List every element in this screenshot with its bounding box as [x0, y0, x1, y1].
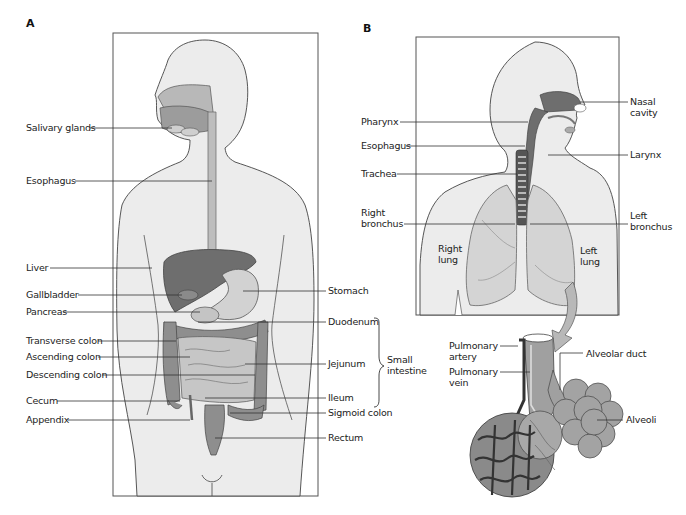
label-stomach: Stomach [328, 285, 369, 296]
label-jejunum: Jejunum [328, 358, 365, 369]
label-pulmonary-artery-line2: artery [449, 351, 498, 362]
label-alveolar-duct: Alveolar duct [586, 348, 646, 359]
label-left-bronchus: Left bronchus [630, 210, 672, 232]
label-left-bronchus-line2: bronchus [630, 221, 672, 232]
label-cecum: Cecum [26, 395, 58, 406]
panel-a-figure [50, 33, 384, 496]
label-alveoli: Alveoli [626, 414, 656, 425]
label-right-lung: Right lung [438, 243, 462, 265]
label-right-lung-line2: lung [438, 254, 462, 265]
label-appendix: Appendix [26, 414, 69, 425]
label-right-bronchus: Right bronchus [361, 207, 403, 229]
label-left-lung-line1: Left [580, 245, 600, 256]
label-larynx: Larynx [630, 149, 661, 160]
label-pulmonary-vein-line1: Pulmonary [449, 366, 498, 377]
label-right-bronchus-line2: bronchus [361, 218, 403, 229]
label-esophagus-b: Esophagus [361, 140, 411, 151]
label-trachea: Trachea [361, 168, 397, 179]
label-pulmonary-artery: Pulmonary artery [449, 340, 498, 362]
label-nasal-cavity-line2: cavity [630, 107, 657, 118]
label-salivary-glands: Salivary glands [26, 122, 96, 133]
label-gallbladder: Gallbladder [26, 289, 79, 300]
label-nasal-cavity: Nasal cavity [630, 96, 657, 118]
label-ileum: Ileum [328, 392, 354, 403]
label-pulmonary-vein-line2: vein [449, 377, 498, 388]
label-pharynx: Pharynx [361, 116, 398, 127]
label-rectum: Rectum [328, 432, 363, 443]
label-duodenum: Duodenum [328, 316, 379, 327]
label-nasal-cavity-line1: Nasal [630, 96, 657, 107]
label-left-bronchus-line1: Left [630, 210, 672, 221]
label-pulmonary-vein: Pulmonary vein [449, 366, 498, 388]
label-pancreas: Pancreas [26, 306, 67, 317]
label-right-bronchus-line1: Right [361, 207, 403, 218]
label-small-intestine-line1: Small [387, 354, 427, 365]
panel-b-figure [397, 37, 628, 352]
label-sigmoid-colon: Sigmoid colon [328, 407, 392, 418]
label-small-intestine-line2: intestine [387, 365, 427, 376]
label-ascending-colon: Ascending colon [26, 351, 101, 362]
label-transverse-colon: Transverse colon [26, 335, 103, 346]
label-pulmonary-artery-line1: Pulmonary [449, 340, 498, 351]
label-left-lung-line2: lung [580, 256, 600, 267]
label-liver: Liver [26, 262, 48, 273]
label-small-intestine: Small intestine [387, 354, 427, 376]
label-left-lung: Left lung [580, 245, 600, 267]
label-descending-colon: Descending colon [26, 369, 107, 380]
label-esophagus-a: Esophagus [26, 175, 76, 186]
label-right-lung-line1: Right [438, 243, 462, 254]
